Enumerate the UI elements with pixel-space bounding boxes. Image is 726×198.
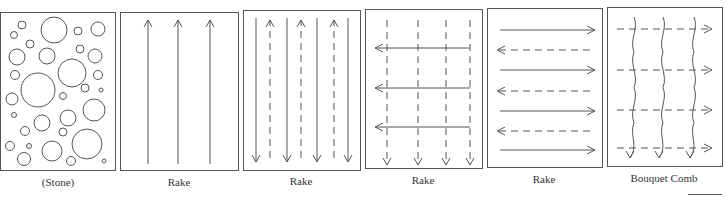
stone-circle (102, 159, 106, 163)
stone-circle (59, 128, 67, 136)
arrow-up (206, 20, 214, 164)
arrow-right (617, 66, 712, 74)
stone-circle (83, 99, 105, 121)
arrow-down (344, 18, 352, 162)
stone-circle (60, 110, 76, 126)
stone-circle (58, 59, 86, 87)
arrow-down (252, 18, 260, 162)
label-bouquet-comb: Bouquet Comb (604, 172, 724, 184)
stone-circle (11, 32, 18, 39)
panel-frames (1, 8, 723, 171)
stone-circle (39, 48, 55, 64)
arrow-right (500, 26, 595, 34)
stone-circle (12, 113, 17, 118)
stone-pattern (6, 17, 107, 166)
stone-circle (81, 84, 89, 92)
stone-circle (99, 88, 103, 92)
stone-circle (74, 27, 82, 35)
stone-circle (67, 157, 76, 166)
arrow-up (266, 20, 274, 158)
wavy-arrow-down (626, 17, 635, 158)
stone-circle (72, 129, 102, 159)
arrow-right (617, 106, 712, 114)
wavy-arrow-down (655, 17, 664, 158)
stone-circle (18, 21, 26, 29)
stone-circle (60, 93, 67, 100)
label-rake-2: Rake (241, 175, 361, 187)
wavy-arrow-down (686, 17, 695, 158)
stone-circle (6, 142, 15, 151)
bouquet-comb-pattern (617, 17, 712, 158)
panel-frame-rake-4 (488, 9, 603, 168)
stone-circle (11, 71, 20, 80)
arrow-left (497, 46, 590, 54)
stone-circle (94, 71, 103, 80)
arrow-left (375, 44, 470, 52)
arrow-down (414, 20, 422, 165)
stone-circle (27, 144, 32, 149)
stone-circle (41, 17, 67, 43)
arrow-down (313, 18, 321, 162)
stone-circle (42, 141, 62, 161)
stone-circle (91, 22, 105, 36)
arrow-left (497, 127, 590, 135)
arrow-down (466, 20, 474, 165)
footer-rule (688, 194, 722, 195)
arrow-down (383, 20, 391, 165)
arrow-down (283, 18, 291, 162)
stone-circle (76, 45, 84, 53)
stone-circle (18, 153, 31, 166)
arrow-down (442, 20, 450, 165)
arrow-right (617, 144, 712, 152)
label-rake-1: Rake (119, 176, 239, 188)
stone-circle (26, 40, 34, 48)
arrow-up (330, 20, 338, 158)
arrow-up (297, 20, 305, 158)
marbling-patterns-diagram (0, 0, 726, 198)
panel-frame-rake-2 (244, 11, 361, 171)
label-rake-3: Rake (363, 174, 483, 186)
label-rake-4: Rake (484, 173, 604, 185)
label-stone: (Stone) (0, 176, 118, 188)
arrow-right (500, 146, 595, 154)
stone-circle (88, 49, 102, 63)
arrow-up (144, 20, 152, 164)
rake-patterns (144, 18, 595, 165)
arrow-left (375, 123, 470, 131)
arrow-left (375, 84, 470, 92)
stone-circle (21, 73, 55, 107)
arrow-up (174, 20, 182, 164)
arrow-right (500, 107, 595, 115)
stone-circle (9, 49, 25, 65)
panel-frame-rake-3 (366, 10, 483, 169)
arrow-right (500, 66, 595, 74)
arrow-left (497, 87, 590, 95)
stone-circle (6, 93, 18, 105)
panel-frame-rake-1 (121, 13, 239, 171)
stone-circle (21, 127, 30, 136)
stone-circle (34, 115, 50, 131)
panel-frame-bouquet-comb (608, 8, 723, 167)
